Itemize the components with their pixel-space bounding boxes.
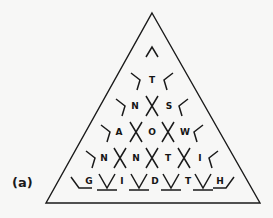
lattice-letter: T — [149, 75, 156, 85]
lattice-letter: N — [132, 153, 140, 163]
lattice-letter: N — [131, 101, 139, 111]
lattice-letter: D — [151, 176, 158, 186]
chevron-left-icon — [116, 99, 125, 116]
chevron-down-icon — [193, 174, 213, 190]
chevron-left-icon — [131, 73, 140, 90]
chevron-left-icon — [86, 151, 95, 168]
chevron-right-icon — [209, 151, 218, 168]
lattice-letter: A — [116, 127, 123, 137]
lattice-letter: H — [216, 176, 224, 186]
lattice-letter: N — [100, 153, 108, 163]
lattice-letter: I — [120, 176, 123, 186]
panel-label: (a) — [12, 176, 33, 189]
chevron-right-icon — [194, 125, 203, 142]
chevron-left-icon — [101, 125, 110, 142]
lattice-letter: T — [185, 176, 192, 186]
lattice-row-3: A O W — [101, 122, 203, 142]
triangle-lattice-figure: T N S A O W N N T — [0, 0, 273, 218]
cross-icon — [178, 148, 190, 168]
lattice-letter: I — [198, 153, 201, 163]
lattice-letter: G — [85, 176, 92, 186]
lattice-row-0 — [146, 47, 158, 57]
cross-icon — [114, 148, 126, 168]
figure-panel: T N S A O W N N T — [0, 0, 273, 218]
cross-icon — [146, 96, 158, 116]
cross-icon — [130, 122, 142, 142]
lattice-letter: W — [180, 127, 190, 137]
lattice-letter: S — [166, 101, 172, 111]
chevron-right-icon — [179, 99, 188, 116]
chevron-down-icon — [161, 174, 181, 190]
lattice-row-4: N N T I — [86, 148, 218, 168]
lattice-letter: T — [165, 153, 172, 163]
chevron-down-icon — [97, 174, 117, 190]
chevron-right-icon — [164, 73, 173, 90]
lattice-letter: O — [148, 127, 156, 137]
cross-icon — [146, 148, 158, 168]
chevron-down-icon — [129, 174, 149, 190]
cross-icon — [162, 122, 174, 142]
lattice-row-1: T — [131, 73, 173, 90]
chevron-up-icon — [146, 47, 158, 57]
lattice-row-5: G I D T H — [71, 174, 234, 190]
lattice-row-2: N S — [116, 96, 188, 116]
